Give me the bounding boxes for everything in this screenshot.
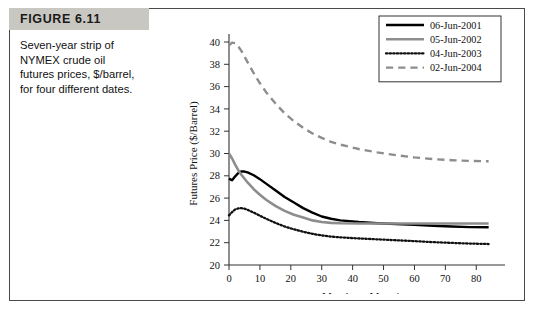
line-chart: 202224262830323436384001020304050607080M… xyxy=(183,12,513,294)
legend-label-1: 06-Jun-2001 xyxy=(430,20,482,31)
legend-label-2: 05-Jun-2002 xyxy=(430,34,482,45)
figure-number-label: FIGURE 6.11 xyxy=(9,12,101,26)
y-tick-label: 24 xyxy=(210,215,221,226)
x-tick-label: 50 xyxy=(378,273,389,284)
x-tick-label: 20 xyxy=(286,273,297,284)
y-tick-label: 34 xyxy=(210,104,221,115)
y-tick-label: 40 xyxy=(210,37,221,48)
x-tick-label: 30 xyxy=(316,273,327,284)
x-tick-label: 0 xyxy=(226,273,231,284)
y-tick-label: 22 xyxy=(210,237,221,248)
y-tick-label: 20 xyxy=(210,260,221,271)
x-tick-label: 40 xyxy=(347,273,358,284)
x-tick-label: 80 xyxy=(471,273,482,284)
x-tick-label: 70 xyxy=(440,273,451,284)
y-tick-label: 28 xyxy=(210,170,221,181)
figure-caption: Seven-year strip of NYMEX crude oil futu… xyxy=(20,38,172,96)
legend-label-3: 04-Jun-2003 xyxy=(430,48,482,59)
legend-label-4: 02-Jun-2004 xyxy=(430,62,482,73)
y-axis-title: Futures Price ($/Barrel) xyxy=(187,101,200,206)
y-tick-label: 38 xyxy=(210,59,221,70)
caption-line-4: for four different dates. xyxy=(20,82,172,97)
y-tick-label: 26 xyxy=(210,193,221,204)
x-tick-label: 60 xyxy=(409,273,420,284)
caption-line-2: NYMEX crude oil xyxy=(20,53,172,68)
y-tick-label: 32 xyxy=(210,126,221,137)
caption-line-1: Seven-year strip of xyxy=(20,38,172,53)
chart-legend: 06-Jun-200105-Jun-200204-Jun-200302-Jun-… xyxy=(379,16,501,82)
y-tick-label: 30 xyxy=(210,148,221,159)
x-axis-title: Months to Maturity xyxy=(322,290,409,294)
x-tick-label: 10 xyxy=(255,273,266,284)
figure-container: FIGURE 6.11 Seven-year strip of NYMEX cr… xyxy=(0,0,535,313)
y-tick-label: 36 xyxy=(210,81,221,92)
figure-number-band: FIGURE 6.11 xyxy=(9,8,149,30)
caption-line-3: futures prices, $/barrel, xyxy=(20,67,172,82)
series-line-2 xyxy=(229,154,489,224)
chart-plot-area: 202224262830323436384001020304050607080M… xyxy=(183,12,513,294)
